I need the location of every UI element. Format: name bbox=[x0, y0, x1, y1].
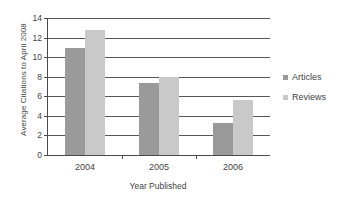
y-tick-label: 14 bbox=[33, 13, 42, 23]
y-tick-label: 4 bbox=[37, 111, 42, 121]
y-tick-label: 2 bbox=[37, 130, 42, 140]
y-tick-label: 6 bbox=[37, 91, 42, 101]
y-tick-mark bbox=[44, 77, 48, 78]
bar-reviews-2006 bbox=[233, 100, 253, 155]
bar-articles-2005 bbox=[139, 83, 159, 155]
plot-area: 02468101214 200420052006 bbox=[47, 18, 270, 156]
y-tick-mark bbox=[44, 57, 48, 58]
x-axis-title: Year Published bbox=[47, 181, 269, 191]
y-tick-label: 8 bbox=[37, 72, 42, 82]
y-tick-mark bbox=[44, 96, 48, 97]
y-tick-mark bbox=[44, 135, 48, 136]
legend-label: Articles bbox=[292, 72, 322, 82]
y-tick-label: 12 bbox=[33, 33, 42, 43]
bar-reviews-2004 bbox=[85, 30, 105, 155]
y-tick-mark bbox=[44, 116, 48, 117]
y-tick-label: 0 bbox=[37, 150, 42, 160]
y-axis-title: Average Citations to April 2008 bbox=[19, 5, 28, 155]
x-tick-label-2006: 2006 bbox=[223, 162, 243, 172]
bar-chart-figure: Average Citations to April 2008 02468101… bbox=[0, 0, 342, 198]
legend-swatch-icon bbox=[283, 75, 288, 80]
chart-legend: ArticlesReviews bbox=[283, 70, 326, 110]
bar-reviews-2005 bbox=[159, 77, 179, 155]
legend-item-reviews[interactable]: Reviews bbox=[283, 90, 326, 104]
x-tick-label-2004: 2004 bbox=[75, 162, 95, 172]
y-tick-mark bbox=[44, 38, 48, 39]
y-tick-mark bbox=[44, 18, 48, 19]
bar-group bbox=[139, 18, 179, 155]
bar-group bbox=[213, 18, 253, 155]
bar-articles-2006 bbox=[213, 123, 233, 155]
y-tick-mark bbox=[44, 155, 48, 156]
bar-articles-2004 bbox=[65, 48, 85, 155]
bar-group bbox=[65, 18, 105, 155]
legend-item-articles[interactable]: Articles bbox=[283, 70, 326, 84]
legend-label: Reviews bbox=[292, 92, 326, 102]
x-tick-label-2005: 2005 bbox=[149, 162, 169, 172]
x-tick-mark bbox=[196, 155, 197, 159]
y-tick-label: 10 bbox=[33, 52, 42, 62]
legend-swatch-icon bbox=[283, 95, 288, 100]
x-tick-mark bbox=[122, 155, 123, 159]
